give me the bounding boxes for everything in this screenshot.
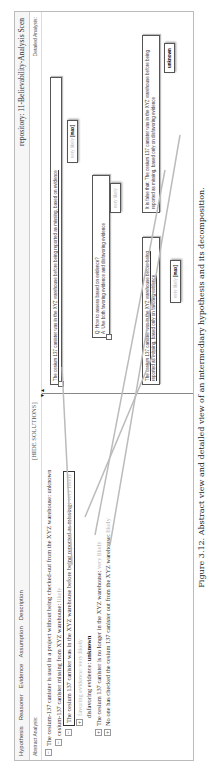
tree-row[interactable]: − The cesium-137 canister is used in a p… — [44, 470, 54, 756]
rotated-figure: Hypothesis Reasoner Evidence Assumption … — [0, 0, 213, 775]
top-assessment-badge: very likely [max] — [67, 120, 78, 163]
figure-caption: Figure 3.12. Abstract view and detailed … — [197, 0, 206, 775]
false-assessment-badge: unknown — [164, 43, 175, 73]
expand-icon[interactable]: + — [104, 729, 111, 736]
collapse-icon[interactable]: − — [65, 729, 72, 736]
menu-hypothesis[interactable]: Hypothesis — [18, 726, 24, 756]
detailed-analysis-panel: The cesium 137 canister was in the XYZ w… — [42, 12, 193, 394]
tree-row[interactable]: disfavoring evidence: unknown — [84, 470, 94, 718]
node-toggle-icon[interactable] — [106, 334, 112, 340]
assessment-value: likely — [54, 588, 64, 603]
detailed-analysis-header: Detailed Analysis: — [30, 12, 42, 395]
expand-icon[interactable]: + — [95, 729, 102, 736]
disfavoring-evidence-node[interactable]: It is false that: The cesium 137 caniste… — [142, 35, 160, 213]
qa-assessment-badge: very likely — [110, 183, 121, 213]
assessment-value: very likely — [65, 474, 72, 502]
top-hypothesis-node[interactable]: The cesium 137 canister was in the XYZ w… — [50, 77, 62, 385]
expand-icon[interactable]: + — [76, 719, 83, 726]
menu-assumption[interactable]: Assumption — [18, 626, 24, 657]
menu-bar: Hypothesis Reasoner Evidence Assumption … — [15, 12, 30, 760]
hypothesis-tree: − The cesium-137 canister is used in a p… — [44, 470, 113, 756]
tree-row[interactable]: − cesium-137 canister missing from XYZ w… — [54, 470, 64, 746]
repository-title: repository: 11-Believability-Analysis Sc… — [17, 18, 26, 146]
assessment-value: very likely — [75, 639, 85, 667]
favor-assessment-badge: very likely [max] — [170, 260, 181, 303]
assessment-value: likely — [103, 518, 113, 533]
tree-row[interactable]: + favoring evidence: very likely — [75, 470, 85, 726]
hide-solutions-link[interactable]: [HIDE SOLUTIONS] — [30, 402, 37, 460]
collapse-icon[interactable]: − — [55, 739, 62, 746]
collapse-icon[interactable]: − — [45, 749, 52, 756]
tree-row[interactable]: + No one has checked the cesium 137 cani… — [103, 470, 113, 736]
question-answer-node[interactable]: Q: How to assess based on evidence? A: U… — [92, 175, 110, 338]
assessment-value: very likely — [94, 541, 104, 569]
menu-reasoner[interactable]: Reasoner — [18, 694, 24, 720]
app-window: Hypothesis Reasoner Evidence Assumption … — [14, 11, 194, 761]
menu-description[interactable]: Description — [18, 590, 24, 620]
tree-row[interactable]: + The cesium 137 canister is no longer i… — [94, 470, 104, 736]
assessment-value: unknown — [44, 470, 54, 494]
assessment-value: unknown — [84, 636, 94, 662]
abstract-analysis-panel: − The cesium-137 canister is used in a p… — [42, 394, 193, 760]
tree-row-selected[interactable]: − The cesium 137 canister was in the XYZ… — [63, 470, 75, 736]
node-toggle-icon[interactable] — [58, 381, 64, 387]
favoring-evidence-node[interactable]: The cesium 137 canister was in the XYZ w… — [142, 237, 160, 385]
menu-evidence[interactable]: Evidence — [18, 664, 24, 689]
